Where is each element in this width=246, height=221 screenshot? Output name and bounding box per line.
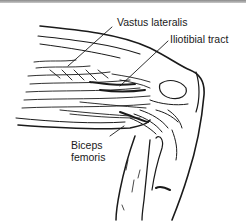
label-iliotibial-tract: Iliotibial tract — [170, 33, 228, 45]
label-vastus-lateralis: Vastus lateralis — [117, 16, 187, 28]
anatomy-figure: Vastus lateralis Iliotibial tract Biceps… — [0, 0, 246, 221]
label-biceps-femoris: Biceps femoris — [71, 139, 111, 163]
